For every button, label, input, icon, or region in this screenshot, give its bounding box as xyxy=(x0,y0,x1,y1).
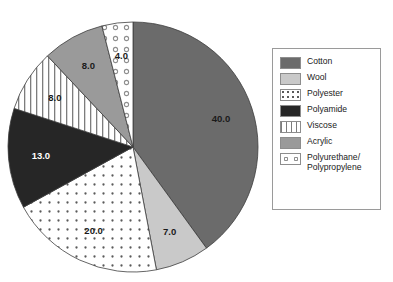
legend-swatch xyxy=(280,57,301,69)
pie-slice-value-label: 8.0 xyxy=(48,92,61,103)
legend-swatch xyxy=(280,121,301,133)
pie-slice-value-label: 4.0 xyxy=(115,50,128,61)
pie-slice-value-label: 13.0 xyxy=(32,150,51,161)
legend-swatch xyxy=(280,73,301,85)
legend-swatch xyxy=(280,137,301,149)
pie-slice-value-label: 20.0 xyxy=(84,225,103,236)
legend-item: Wool xyxy=(280,72,374,85)
legend-item: Polyester xyxy=(280,88,374,101)
legend-swatch xyxy=(280,105,301,117)
legend-item-label: Polyester xyxy=(307,88,343,99)
legend-item: Acrylic xyxy=(280,136,374,149)
legend-swatch xyxy=(280,89,301,101)
legend-item: Viscose xyxy=(280,120,374,133)
legend-item-label: Viscose xyxy=(307,120,337,131)
pie-chart-figure: 40.07.020.013.08.08.04.0 CottonWoolPolye… xyxy=(0,0,393,282)
legend-item-label: Acrylic xyxy=(307,136,332,147)
pie-slices-group xyxy=(8,22,258,272)
legend-item: Cotton xyxy=(280,56,374,69)
legend-swatch xyxy=(280,153,301,165)
legend-item-label: Polyamide xyxy=(307,104,347,115)
pie-slice-value-label: 40.0 xyxy=(212,113,231,124)
pie-slice-value-label: 8.0 xyxy=(82,60,95,71)
legend-item-label: Polyurethane/ Polypropylene xyxy=(307,152,361,172)
chart-legend: CottonWoolPolyesterPolyamideViscoseAcryl… xyxy=(272,48,381,210)
legend-item-label: Wool xyxy=(307,72,326,83)
legend-item: Polyurethane/ Polypropylene xyxy=(280,152,374,172)
legend-item: Polyamide xyxy=(280,104,374,117)
legend-item-list: CottonWoolPolyesterPolyamideViscoseAcryl… xyxy=(280,56,374,172)
legend-item-label: Cotton xyxy=(307,56,332,67)
pie-slice-value-label: 7.0 xyxy=(163,226,176,237)
